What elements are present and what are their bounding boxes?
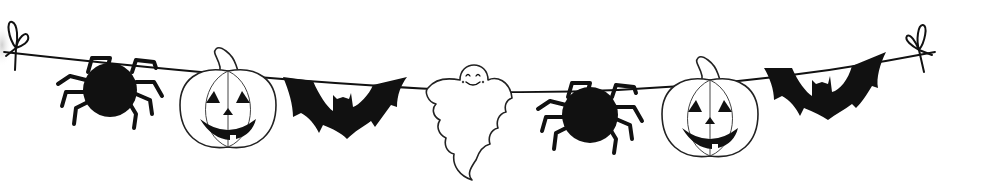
bow-right-icon	[906, 25, 932, 72]
spider-icon	[538, 83, 642, 153]
halloween-garland	[0, 0, 1001, 195]
jack-o-lantern-icon	[662, 57, 758, 157]
ghost-icon	[426, 65, 512, 180]
jack-o-lantern-icon	[180, 48, 276, 148]
spider-icon	[58, 58, 162, 128]
bat-icon	[764, 52, 886, 120]
bat-icon	[283, 77, 407, 139]
